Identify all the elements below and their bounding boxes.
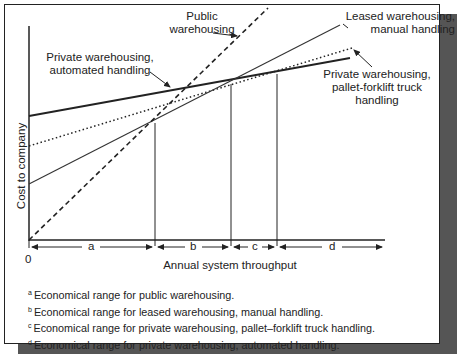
label-line: handling [312,94,442,107]
footnotes: aEconomical range for public warehousing… [28,286,375,352]
arrow-pallet [354,50,372,67]
line-leased [29,25,340,184]
range-label-b: b [190,240,196,252]
label-line: Private warehousing, [40,51,160,64]
footnote-mark: d [28,339,32,346]
range-label-a: a [88,240,94,252]
footnote: bEconomical range for leased warehousing… [28,303,375,320]
line-public [29,8,268,240]
footnote-mark: a [28,289,32,296]
range-label-d: d [329,240,335,252]
label-pallet: Private warehousing, pallet-forklift tru… [312,68,442,107]
footnote: aEconomical range for public warehousing… [28,286,375,303]
footnote-text: Economical range for leased warehousing,… [34,306,323,318]
label-automated: Private warehousing, automated handling [40,51,160,77]
footnote: dEconomical range for private warehousin… [28,336,375,353]
footnote: cEconomical range for private warehousin… [28,319,375,336]
footnote-mark: b [28,306,32,313]
footnote-text: Economical range for private warehousing… [34,322,375,334]
label-leased: Leased warehousing, manual handling [330,10,455,36]
footnote-text: Economical range for public warehousing. [34,289,234,301]
range-label-c: c [252,240,258,252]
label-line: automated handling [40,64,160,77]
x-axis-label: Annual system throughput [130,259,330,272]
y-axis-label: Cost to company [15,123,27,209]
label-line: Private warehousing, [312,68,442,81]
label-line: pallet-forklift truck [312,81,442,94]
footnote-text: Economical range for private warehousing… [34,339,340,351]
origin-label: 0 [25,253,31,265]
footnote-mark: c [28,322,32,329]
label-line: Leased warehousing, [330,10,455,23]
label-line: manual handling [330,23,455,36]
label-public: Public warehousing [162,10,242,36]
label-line: warehousing [162,23,242,36]
label-line: Public [162,10,242,23]
